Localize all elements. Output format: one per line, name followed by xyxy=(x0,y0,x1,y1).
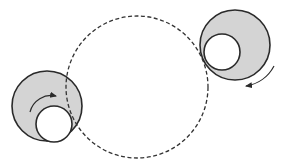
dashed-path-circle xyxy=(66,16,208,158)
diagram-canvas xyxy=(0,0,284,167)
right-roller-inner-circle xyxy=(204,34,240,70)
rolling-circles-diagram xyxy=(0,0,284,167)
left-roller-inner-circle xyxy=(36,106,72,142)
